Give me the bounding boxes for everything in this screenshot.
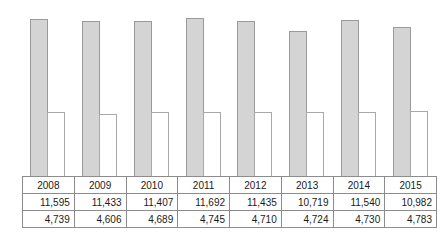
value-cell-0: 11,595 — [23, 194, 75, 211]
value-cell-7: 10,982 — [385, 194, 437, 211]
value-cell-1: 4,606 — [74, 211, 126, 228]
bar-group-2010 — [126, 8, 178, 176]
value-cell-7: 4,783 — [385, 211, 437, 228]
year-cell-5: 2013 — [281, 177, 333, 194]
value-cell-3: 4,745 — [178, 211, 230, 228]
bar-series-1-2009 — [82, 21, 100, 176]
data-table: 2008200920102011201220132014201511,59511… — [22, 176, 437, 228]
bar-group-2012 — [230, 8, 282, 176]
bar-series-2-2014 — [358, 112, 376, 176]
value-cell-3: 11,692 — [178, 194, 230, 211]
bar-series-2-2008 — [47, 112, 65, 176]
bar-series-1-2010 — [134, 21, 152, 176]
data-table-container: 2008200920102011201220132014201511,59511… — [22, 176, 437, 228]
bar-group-2011 — [178, 8, 230, 176]
bar-series-2-2013 — [306, 112, 324, 176]
value-cell-4: 11,435 — [230, 194, 282, 211]
year-cell-2: 2010 — [126, 177, 178, 194]
value-cell-6: 11,540 — [333, 194, 385, 211]
value-cell-0: 4,739 — [23, 211, 75, 228]
table-row: 11,59511,43311,40711,69211,43510,71911,5… — [23, 194, 437, 211]
value-cell-6: 4,730 — [333, 211, 385, 228]
year-cell-6: 2014 — [333, 177, 385, 194]
chart-plot-area — [22, 8, 437, 176]
value-cell-5: 10,719 — [281, 194, 333, 211]
bar-series-1-2012 — [237, 21, 255, 176]
bar-group-2013 — [281, 8, 333, 176]
bar-group-2009 — [74, 8, 126, 176]
value-cell-2: 4,689 — [126, 211, 178, 228]
value-cell-4: 4,710 — [230, 211, 282, 228]
bar-series-2-2015 — [410, 111, 428, 176]
value-cell-2: 11,407 — [126, 194, 178, 211]
bar-series-1-2011 — [186, 18, 204, 176]
bar-group-2015 — [385, 8, 437, 176]
year-cell-1: 2009 — [74, 177, 126, 194]
bar-series-2-2010 — [151, 112, 169, 176]
bar-group-2008 — [22, 8, 74, 176]
bar-series-2-2011 — [203, 112, 221, 176]
year-cell-7: 2015 — [385, 177, 437, 194]
bar-series-2-2009 — [99, 114, 117, 176]
bar-series-2-2012 — [254, 112, 272, 176]
bar-group-2014 — [333, 8, 385, 176]
value-cell-5: 4,724 — [281, 211, 333, 228]
year-cell-4: 2012 — [230, 177, 282, 194]
data-table-body: 2008200920102011201220132014201511,59511… — [23, 177, 437, 228]
bar-series-1-2008 — [30, 19, 48, 176]
year-cell-0: 2008 — [23, 177, 75, 194]
year-cell-3: 2011 — [178, 177, 230, 194]
table-row: 20082009201020112012201320142015 — [23, 177, 437, 194]
bar-series-1-2015 — [393, 27, 411, 176]
table-row: 4,7394,6064,6894,7454,7104,7244,7304,783 — [23, 211, 437, 228]
bar-chart-with-data-table: 2008200920102011201220132014201511,59511… — [0, 0, 448, 250]
bar-series-1-2014 — [341, 20, 359, 176]
value-cell-1: 11,433 — [74, 194, 126, 211]
bar-series-1-2013 — [289, 31, 307, 176]
